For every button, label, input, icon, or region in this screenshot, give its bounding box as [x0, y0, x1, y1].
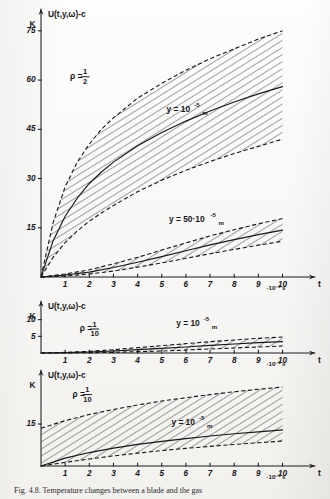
rho-annotation: ρ =12	[70, 67, 90, 86]
y-axis-unit: K	[30, 312, 36, 321]
svg-text:y = 50·10: y = 50·10	[169, 214, 205, 224]
figure-caption: Fig. 4.8. Temperature changes between a …	[14, 486, 324, 495]
y-axis-unit: K	[30, 20, 36, 29]
svg-text:y = 10: y = 10	[176, 318, 200, 328]
x-tick-label: 4	[134, 469, 140, 478]
svg-text:ρ =: ρ =	[70, 71, 83, 81]
y-axis-title: U(t,y,ω)-c	[48, 301, 86, 311]
chart-panel-middle: 12345678910510KU(t,y,ω)-c·10⁻³ stρ =110y…	[0, 302, 330, 368]
x-tick-label: 2	[86, 469, 92, 478]
x-tick-label: 8	[232, 356, 237, 365]
x-tick-label: 3	[111, 469, 116, 478]
y-axis-title: U(t,y,ω)-c	[48, 9, 86, 19]
y-tick-label: 30	[26, 174, 36, 183]
y-tick-label: 15	[26, 223, 36, 232]
y-tick-label: 15	[26, 419, 36, 428]
x-tick-label: 9	[256, 280, 261, 289]
curve-annotation: y = 10-5m	[176, 315, 218, 330]
x-axis-label: t	[318, 355, 321, 365]
x-tick-label: 8	[232, 280, 237, 289]
x-tick-label: 7	[208, 280, 213, 289]
svg-text:-5: -5	[210, 211, 216, 218]
svg-text:-5: -5	[199, 414, 205, 421]
svg-text:·10⁻³ s: ·10⁻³ s	[267, 473, 287, 480]
x-axis-unit: ·10⁻³ s	[267, 360, 287, 367]
x-tick-label: 4	[134, 356, 140, 365]
x-tick-label: 7	[208, 469, 213, 478]
x-axis-label: t	[318, 468, 321, 478]
x-tick-label: 5	[159, 469, 164, 478]
chart-panel-top: 123456789101530456075KU(t,y,ω)-c·10⁻³ st…	[0, 4, 330, 304]
x-tick-label: 2	[86, 356, 92, 365]
x-tick-label: 7	[208, 356, 213, 365]
y-axis-unit: K	[30, 381, 36, 390]
x-axis-label: t	[318, 279, 321, 289]
svg-text:-5: -5	[194, 101, 200, 108]
svg-text:m: m	[207, 422, 213, 429]
y-tick-label: 60	[26, 75, 36, 84]
svg-text:y = 10: y = 10	[171, 417, 195, 427]
svg-text:·10⁻³ s: ·10⁻³ s	[267, 284, 287, 291]
x-tick-label: 6	[184, 280, 189, 289]
x-tick-label: 5	[159, 356, 164, 365]
x-tick-label: 1	[63, 469, 68, 478]
svg-text:1: 1	[83, 67, 87, 76]
x-tick-label: 4	[134, 280, 140, 289]
rho-annotation: ρ =110	[72, 385, 92, 404]
x-tick-label: 6	[184, 356, 189, 365]
x-tick-label: 6	[184, 469, 189, 478]
svg-text:10: 10	[91, 329, 99, 338]
svg-text:m: m	[202, 109, 208, 116]
x-tick-label: 2	[86, 280, 92, 289]
svg-text:y = 10: y = 10	[167, 104, 191, 114]
x-tick-label: 3	[111, 356, 116, 365]
svg-text:-5: -5	[204, 315, 210, 322]
svg-text:·10⁻³ s: ·10⁻³ s	[267, 360, 287, 367]
svg-text:1: 1	[85, 385, 89, 394]
x-tick-label: 5	[159, 280, 164, 289]
svg-text:1: 1	[93, 320, 97, 329]
svg-text:2: 2	[83, 77, 87, 86]
x-tick-label: 8	[232, 469, 237, 478]
y-tick-label: 5	[31, 332, 36, 341]
svg-text:m: m	[212, 323, 218, 330]
x-axis-unit: ·10⁻³ s	[267, 473, 287, 480]
y-tick-label: 45	[25, 124, 36, 133]
y-axis-title: U(t,y,ω)-c	[48, 370, 86, 380]
x-tick-label: 9	[256, 356, 261, 365]
x-tick-label: 9	[256, 469, 261, 478]
rho-annotation: ρ =110	[80, 320, 100, 339]
chart-panel-bottom: 1234567891015KU(t,y,ω)-c·10⁻³ stρ =110y …	[0, 368, 330, 486]
x-tick-label: 1	[63, 280, 68, 289]
x-tick-label: 3	[111, 280, 116, 289]
curve-annotation: y = 50·10-5m	[169, 211, 224, 226]
x-axis-unit: ·10⁻³ s	[267, 284, 287, 291]
svg-text:m: m	[218, 219, 224, 226]
svg-text:10: 10	[83, 395, 91, 404]
x-tick-label: 1	[63, 356, 68, 365]
